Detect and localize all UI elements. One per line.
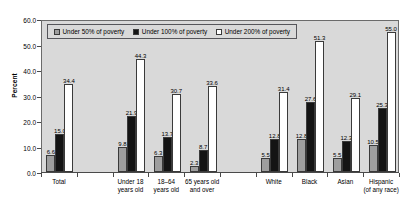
bar-value-label: 5.5 <box>262 152 270 158</box>
bar: 13.7 <box>163 137 172 172</box>
y-tick-label: 20.0 <box>6 119 36 126</box>
y-tick-label: 60.0 <box>6 17 36 24</box>
bar: 8.7 <box>199 150 208 172</box>
x-category-label: Total <box>28 178 89 186</box>
bar-group: 12.827.651.3 <box>293 21 329 172</box>
bar: 9.8 <box>118 147 127 172</box>
x-category-label: 65 years old and over <box>172 178 233 194</box>
bar: 30.7 <box>172 94 181 172</box>
bar: 10.5 <box>369 145 378 172</box>
bar: 29.1 <box>351 98 360 172</box>
bar: 44.3 <box>136 59 145 172</box>
x-tick-mark <box>220 173 221 177</box>
x-tick-mark <box>327 173 328 177</box>
x-category-label: Hispanic (of any race) <box>351 178 409 194</box>
bar-group: 9.821.944.3 <box>114 21 150 172</box>
legend-label-series-2: Under 100% of poverty <box>142 28 207 35</box>
bar: 33.6 <box>208 86 217 172</box>
bar: 12.8 <box>297 139 306 172</box>
y-axis-title: Percent <box>11 56 18 116</box>
bar: 12.8 <box>270 139 279 172</box>
x-tick-mark <box>184 173 185 177</box>
bar-value-label: 6.3 <box>154 150 162 156</box>
bar: 12.3 <box>342 141 351 172</box>
bar-value-label: 9.8 <box>118 141 126 147</box>
bar-group: 2.38.733.6 <box>185 21 221 172</box>
x-tick-mark <box>399 173 400 177</box>
bar-value-label: 6.6 <box>47 149 55 155</box>
x-tick-mark <box>148 173 149 177</box>
legend-label-series-3: Under 200% of poverty <box>225 28 290 35</box>
legend-item-under-200: Under 200% of poverty <box>216 28 290 35</box>
legend-item-under-100: Under 100% of poverty <box>133 28 207 35</box>
bar-value-label: 33.6 <box>206 80 218 86</box>
legend-swatch-icon-series-1 <box>54 29 60 35</box>
bar-value-label: 5.5 <box>333 152 341 158</box>
legend-swatch-icon-series-2 <box>133 29 139 35</box>
bar-group: 5.512.329.1 <box>328 21 364 172</box>
bar: 15.0 <box>55 134 64 172</box>
y-tick-label: 50.0 <box>6 42 36 49</box>
bar: 27.6 <box>306 102 315 172</box>
y-tick-label: 30.0 <box>6 93 36 100</box>
bar: 25.3 <box>378 108 387 173</box>
x-tick-mark <box>256 173 257 177</box>
bar-chart: Percent 0.010.020.030.040.050.060.0 6.61… <box>0 0 409 211</box>
chart-legend: Under 50% of poverty Under 100% of pover… <box>47 24 297 39</box>
bar: 34.4 <box>64 84 73 172</box>
plot-area: 6.615.034.49.821.944.36.313.730.72.38.73… <box>41 20 399 173</box>
bar-value-label: 55.0 <box>385 26 397 32</box>
x-tick-mark <box>292 173 293 177</box>
bar: 51.3 <box>315 41 324 172</box>
bar-group: 6.313.730.7 <box>149 21 185 172</box>
bar: 5.5 <box>333 158 342 172</box>
legend-item-under-50: Under 50% of poverty <box>54 28 124 35</box>
bar: 6.6 <box>46 155 55 172</box>
x-tick-mark <box>41 173 42 177</box>
y-tick-label: 0.0 <box>6 170 36 177</box>
y-tick-label: 10.0 <box>6 144 36 151</box>
legend-swatch-icon-series-3 <box>216 29 222 35</box>
bar-value-label: 34.4 <box>63 78 75 84</box>
bar-value-label: 31.4 <box>278 86 290 92</box>
bar-value-label: 2.3 <box>190 160 198 166</box>
x-tick-mark <box>363 173 364 177</box>
legend-label-series-1: Under 50% of poverty <box>63 28 125 35</box>
x-tick-mark <box>77 173 78 177</box>
bar-value-label: 30.7 <box>170 88 182 94</box>
bar: 5.5 <box>261 158 270 172</box>
bar-group: 5.512.831.4 <box>257 21 293 172</box>
bar-value-label: 44.3 <box>135 53 147 59</box>
x-tick-mark <box>113 173 114 177</box>
y-tick-label: 40.0 <box>6 68 36 75</box>
bar-value-label: 29.1 <box>349 92 361 98</box>
bar: 21.9 <box>127 116 136 172</box>
bar-group: 10.525.355.0 <box>364 21 400 172</box>
bar: 31.4 <box>279 92 288 172</box>
bar-value-label: 8.7 <box>199 144 207 150</box>
bar-group: 6.615.034.4 <box>42 21 78 172</box>
bar-value-label: 51.3 <box>314 35 326 41</box>
bar: 6.3 <box>154 156 163 172</box>
bar: 55.0 <box>387 32 396 172</box>
